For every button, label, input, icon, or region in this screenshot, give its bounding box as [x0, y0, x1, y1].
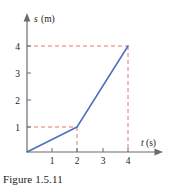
y-axis-label-variable: s	[34, 14, 38, 24]
x-tick-label-3: 3	[101, 156, 106, 166]
x-axis-arrow-icon	[155, 149, 164, 156]
x-axis-label-unit: (s)	[146, 138, 156, 149]
x-axis-label: t (s)	[141, 138, 156, 149]
y-tick-label-1: 1	[15, 123, 20, 133]
x-axis-label-variable: t	[141, 138, 144, 148]
y-tick-label-2: 2	[15, 96, 20, 106]
x-tick-label-2: 2	[75, 156, 80, 166]
y-axis-arrow-icon	[24, 13, 31, 22]
graph-plot: 1 2 3 4 1 2 3 4 s (m) t (s)	[0, 0, 181, 170]
y-axis-label: s (m)	[34, 14, 55, 25]
y-axis-label-unit: (m)	[41, 14, 55, 25]
x-tick-label-4: 4	[126, 156, 131, 166]
x-tick-label-1: 1	[50, 156, 55, 166]
y-tick-label-3: 3	[15, 69, 20, 79]
figure-container: 1 2 3 4 1 2 3 4 s (m) t (s) Figure 1.5.1…	[0, 0, 181, 192]
figure-caption: Figure 1.5.11	[3, 173, 63, 185]
axes-group	[24, 13, 163, 155]
y-tick-label-4: 4	[15, 42, 20, 52]
guide-lines-group	[27, 46, 128, 152]
